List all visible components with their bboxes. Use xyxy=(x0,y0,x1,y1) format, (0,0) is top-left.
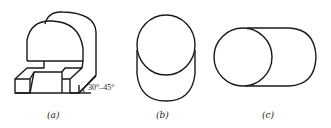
figure-a-drawing xyxy=(15,12,96,93)
figure-a-label: (a) xyxy=(47,110,59,120)
figure-b-label: (b) xyxy=(156,110,169,120)
figure-c-label: (c) xyxy=(262,110,274,120)
figure-b-drawing xyxy=(137,15,195,101)
figure-c-drawing xyxy=(214,28,316,86)
diagram-canvas xyxy=(0,0,331,128)
angle-label: 30°–45° xyxy=(88,83,114,92)
